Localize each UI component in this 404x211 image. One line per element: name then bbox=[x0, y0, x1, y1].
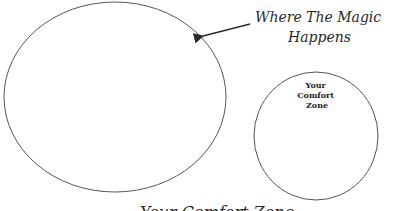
bottom-caption: Your Comfort Zone bbox=[140, 203, 294, 211]
comfort-zone-diagram: Your Comfort Zone Where The Magic Happen… bbox=[0, 0, 404, 211]
diagram-canvas: Your Comfort Zone Where The Magic Happen… bbox=[0, 0, 404, 211]
comfort-zone-label-line-1: Your bbox=[304, 80, 326, 90]
magic-annotation-line-1: Where The Magic bbox=[255, 9, 381, 25]
magic-zone-circle bbox=[4, 2, 226, 192]
comfort-zone-label-line-2: Comfort bbox=[297, 90, 334, 100]
magic-annotation: Where The Magic Happens bbox=[255, 9, 386, 45]
comfort-zone-label-line-3: Zone bbox=[306, 100, 328, 110]
annotation-arrow-icon bbox=[203, 24, 250, 36]
comfort-zone-label: Your Comfort Zone bbox=[297, 80, 337, 110]
magic-annotation-line-2: Happens bbox=[287, 29, 351, 45]
